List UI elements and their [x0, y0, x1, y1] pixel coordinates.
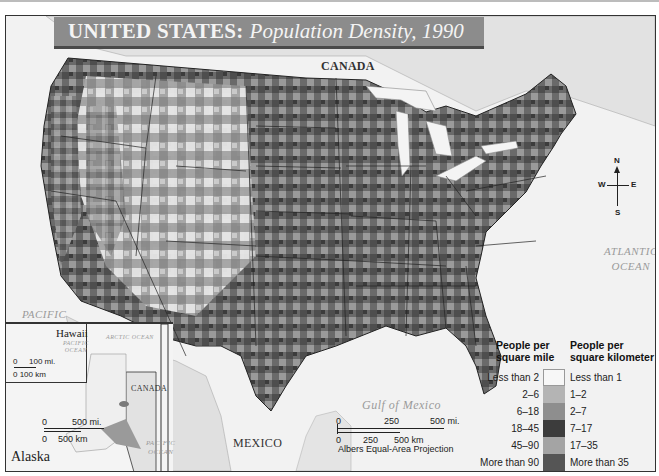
legend-mile-value: Less than 2: [487, 372, 539, 383]
compass-e: E: [631, 180, 636, 189]
legend-swatch: [543, 437, 565, 454]
legend-row: 18–45 7–17: [466, 420, 656, 437]
legend-row: 6–18 2–7: [466, 403, 656, 420]
hawaii-ocean-line-2: OCEAN: [63, 347, 89, 354]
inset-pacific-line-2: OCEAN: [146, 448, 175, 457]
hawaii-inset: Hawaii PACIFIC OCEAN 0 100 mi. 0 100 km: [6, 324, 87, 383]
legend-row: More than 90 More than 35: [466, 454, 656, 471]
hawaii-scale-km: 0 100 km: [13, 370, 46, 379]
legend-swatch: [543, 369, 565, 386]
legend-swatch: [543, 386, 565, 403]
legend-swatch: [543, 454, 565, 471]
title-main: UNITED STATES:: [68, 19, 244, 44]
inset-pacific-line-1: PACIFIC: [146, 439, 175, 448]
compass-s: S: [615, 208, 620, 217]
label-canada: CANADA: [321, 59, 375, 74]
scale-mi-250: 250: [384, 416, 399, 426]
legend-km-value: Less than 1: [570, 372, 622, 383]
label-alaska: Alaska: [11, 449, 50, 465]
legend-row: Less than 2 Less than 1: [466, 369, 656, 386]
projection-note: Albers Equal-Area Projection: [338, 444, 454, 454]
alaska-scale-mi-500: 500 mi.: [72, 417, 102, 427]
map-title: UNITED STATES: Population Density, 1990: [54, 17, 484, 49]
label-mexico: MEXICO: [233, 436, 282, 451]
label-gulf-of-mexico: Gulf of Mexico: [362, 398, 441, 413]
legend-mile-value: 18–45: [511, 423, 539, 434]
scale-mi-500: 500 mi.: [430, 416, 460, 426]
alaska-inset: Hawaii PACIFIC OCEAN 0 100 mi. 0 100 km …: [6, 322, 173, 472]
legend-row: 2–6 1–2: [466, 386, 656, 403]
atlantic-line-2: OCEAN: [604, 259, 656, 274]
label-hawaii-pacific: PACIFIC OCEAN: [63, 340, 89, 354]
hawaii-scale-mi-0: 0: [13, 357, 17, 366]
map-frame: UNITED STATES: Population Density, 1990 …: [5, 15, 656, 472]
legend-header-mile-2: square mile: [496, 351, 554, 363]
legend-row: 45–90 17–35: [466, 437, 656, 454]
top-rule: [0, 0, 659, 2]
legend-mile-value: 6–18: [517, 406, 539, 417]
compass-w: W: [598, 180, 606, 189]
compass-rose-icon: N W E S: [598, 156, 638, 218]
legend-header-km-2: square kilometer: [570, 351, 654, 363]
legend-swatch: [543, 403, 565, 420]
legend-km-value: More than 35: [570, 457, 629, 468]
pacific-line-1: PACIFIC: [22, 307, 66, 322]
hawaii-scale-mi-100: 100 mi.: [29, 357, 55, 366]
legend-km-value: 17–35: [570, 440, 598, 451]
alaska-scale-mi-0: 0: [42, 417, 47, 427]
alaska-scale-km-500: 500 km: [58, 434, 88, 444]
label-arctic-ocean: ARCTIC OCEAN: [106, 330, 154, 345]
alaska-scale-km-0: 0: [42, 434, 47, 444]
atlantic-line-1: ATLANTIC: [604, 244, 656, 259]
legend-km-value: 7–17: [570, 423, 592, 434]
legend-header-mile-1: People per: [496, 339, 554, 351]
legend-km-value: 1–2: [570, 389, 587, 400]
hawaii-ocean-line-1: PACIFIC: [63, 340, 89, 347]
compass-n: N: [614, 156, 620, 165]
title-subtitle: Population Density, 1990: [250, 19, 464, 44]
legend-header-km-1: People per: [570, 339, 654, 351]
label-inset-pacific: PACIFIC OCEAN: [146, 439, 175, 457]
label-atlantic-ocean: ATLANTIC OCEAN: [604, 244, 656, 274]
label-inset-canada: CANADA: [131, 384, 167, 393]
label-hawaii: Hawaii: [56, 327, 88, 339]
legend-km-value: 2–7: [570, 406, 587, 417]
legend-mile-value: More than 90: [480, 457, 539, 468]
legend-swatch: [543, 420, 565, 437]
legend-header-km: People per square kilometer: [570, 339, 654, 363]
legend-mile-value: 2–6: [522, 389, 539, 400]
legend-mile-value: 45–90: [511, 440, 539, 451]
legend-header-mile: People per square mile: [496, 339, 554, 363]
